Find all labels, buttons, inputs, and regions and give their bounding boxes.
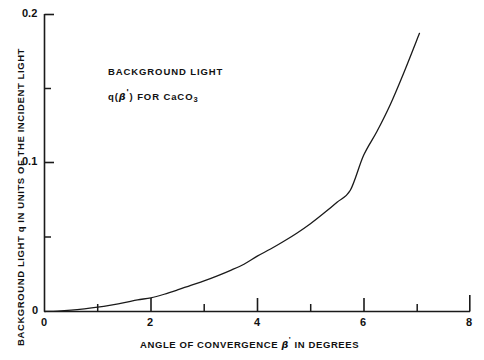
beta-symbol: β bbox=[281, 339, 288, 350]
x-tick-label-0: 0 bbox=[41, 316, 47, 328]
y-axis-title: BACKGROUND LIGHT q IN UNITS OF THE INCID… bbox=[15, 48, 26, 346]
y-tick-label-0: 0 bbox=[32, 304, 38, 316]
x-tick-label-2: 2 bbox=[147, 316, 153, 328]
annotation-background-light: BACKGROUND LIGHT bbox=[108, 66, 223, 77]
x-tick-label-8: 8 bbox=[466, 316, 472, 328]
chart-figure: 0.2 0.1 0 0 2 4 6 8 BACKGROUND LIGHT q I… bbox=[0, 0, 484, 360]
annotation-formula-middle: ) FOR CaCO bbox=[130, 91, 194, 102]
x-axis-title-suffix: IN DEGREES bbox=[291, 339, 359, 350]
x-axis-title-prefix: ANGLE OF CONVERGENCE bbox=[140, 339, 281, 350]
annotation-formula: q(β') FOR CaCO3 bbox=[108, 88, 199, 102]
prime-symbol: ' bbox=[289, 335, 292, 344]
annotation-prime-symbol: ' bbox=[126, 87, 129, 97]
x-tick-label-4: 4 bbox=[254, 316, 260, 328]
x-axis-title: ANGLE OF CONVERGENCE β' IN DEGREES bbox=[140, 337, 359, 350]
chart-plot-area bbox=[0, 0, 484, 360]
y-tick-label-0.2: 0.2 bbox=[22, 7, 37, 19]
x-tick-label-6: 6 bbox=[360, 316, 366, 328]
annotation-formula-prefix: q( bbox=[108, 91, 119, 102]
annotation-formula-subscript: 3 bbox=[193, 95, 198, 104]
